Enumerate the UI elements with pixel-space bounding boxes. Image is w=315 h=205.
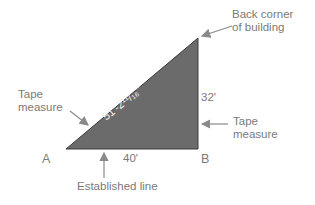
tape-measure-right-callout: Tape measure xyxy=(233,115,278,141)
tape-measure-left-callout: Tape measure xyxy=(18,88,63,114)
tape-right-line1: Tape xyxy=(233,115,278,128)
tape-left-arrow-icon xyxy=(70,111,88,125)
back-corner-callout: Back corner of building xyxy=(232,8,293,34)
vertical-side-label: 32' xyxy=(201,91,216,104)
established-line-callout: Established line xyxy=(77,180,158,193)
tape-left-line2: measure xyxy=(18,101,63,114)
base-side-label: 40' xyxy=(123,152,138,165)
tape-right-line2: measure xyxy=(233,128,278,141)
back-corner-arrow-icon xyxy=(202,26,232,36)
point-b-label: B xyxy=(201,153,209,166)
back-corner-line1: Back corner xyxy=(232,8,293,21)
point-a-label: A xyxy=(42,153,50,166)
tape-left-line1: Tape xyxy=(18,88,63,101)
back-corner-line2: of building xyxy=(232,21,293,34)
